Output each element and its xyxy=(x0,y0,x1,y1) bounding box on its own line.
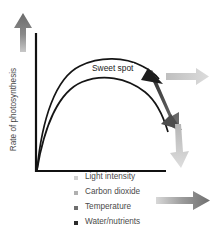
legend: Light intensity Carbon dioxide Temperatu… xyxy=(74,170,164,230)
legend-item-light-intensity[interactable]: Light intensity xyxy=(74,170,164,185)
legend-item-temperature[interactable]: Temperature xyxy=(74,200,164,215)
upper-curve xyxy=(37,59,159,170)
legend-item-label: Carbon dioxide xyxy=(85,188,140,196)
plateau-arrow xyxy=(166,68,209,85)
photosynthesis-diagram: Rate of photosynthesis Sweet spot Light … xyxy=(0,0,221,236)
legend-item-label: Temperature xyxy=(85,203,131,211)
legend-item-water-nutrients[interactable]: Water/nutrients xyxy=(74,215,164,230)
legend-bullet-icon xyxy=(74,221,78,225)
sweet-spot-annotation: Sweet spot xyxy=(91,63,134,73)
legend-bullet-icon xyxy=(74,176,78,180)
legend-item-label: Water/nutrients xyxy=(85,218,140,226)
right-arrow-icon xyxy=(156,191,210,210)
legend-bullet-icon xyxy=(74,191,78,195)
up-arrow-icon xyxy=(14,13,32,52)
collapse-arrow xyxy=(170,124,189,168)
legend-item-label: Light intensity xyxy=(85,173,135,181)
y-axis-label: Rate of photosynthesis xyxy=(9,55,18,165)
legend-item-carbon-dioxide[interactable]: Carbon dioxide xyxy=(74,185,164,200)
legend-bullet-icon xyxy=(74,206,78,210)
